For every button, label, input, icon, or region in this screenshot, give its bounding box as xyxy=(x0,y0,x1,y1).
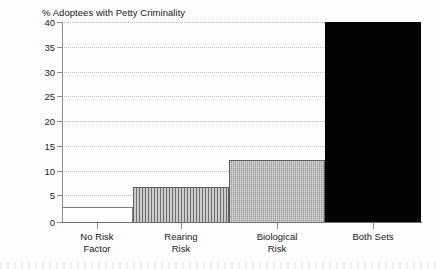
chart-title: % Adoptees with Petty Criminality xyxy=(42,7,185,18)
y-tick-label-35: 35 xyxy=(33,41,55,52)
bar-both-sets xyxy=(325,22,421,222)
plot-area xyxy=(62,22,421,222)
x-tick-mark-both-sets xyxy=(373,223,374,229)
scan-artifact xyxy=(0,262,436,269)
y-tick-label-25: 25 xyxy=(33,91,55,102)
x-axis-label-rearing-risk: Rearing Risk xyxy=(136,231,226,254)
x-axis-label-line-2: Risk xyxy=(136,243,226,255)
bar-no-risk-factor xyxy=(62,207,133,222)
x-tick-mark-biological-risk xyxy=(277,223,278,229)
y-axis-labels: 40 35 30 25 20 15 10 5 0 xyxy=(29,0,55,269)
x-axis-line xyxy=(62,222,422,223)
y-tick-label-30: 30 xyxy=(33,66,55,77)
y-tick-label-40: 40 xyxy=(33,17,55,28)
y-tick-label-20: 20 xyxy=(33,116,55,127)
y-tick-label-10: 10 xyxy=(33,165,55,176)
x-tick-mark-rearing-risk xyxy=(181,223,182,229)
x-axis-label-line-2: Factor xyxy=(52,243,142,255)
y-tick-label-15: 15 xyxy=(33,140,55,151)
x-axis-label-line-2: Risk xyxy=(232,243,322,255)
x-axis-label-biological-risk: Biological Risk xyxy=(232,231,322,254)
x-tick-mark-no-risk-factor xyxy=(97,223,98,229)
chart-screenshot: % Adoptees with Petty Criminality 40 35 … xyxy=(0,0,436,269)
y-tick-label-5: 5 xyxy=(33,190,55,201)
x-axis-label-line-1: Biological xyxy=(232,231,322,243)
x-axis-label-both-sets: Both Sets xyxy=(328,231,418,243)
x-axis-label-line-1: Both Sets xyxy=(328,231,418,243)
x-axis-label-no-risk-factor: No Risk Factor xyxy=(52,231,142,254)
bar-biological-risk xyxy=(229,160,325,222)
x-axis-label-line-1: Rearing xyxy=(136,231,226,243)
y-tick-label-0: 0 xyxy=(33,217,55,228)
x-axis-label-line-1: No Risk xyxy=(52,231,142,243)
bar-rearing-risk xyxy=(133,187,229,222)
y-axis-line xyxy=(62,22,63,222)
